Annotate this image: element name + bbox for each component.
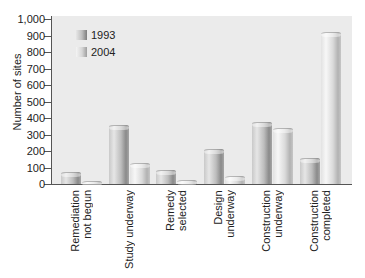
y-tick bbox=[44, 151, 51, 152]
bar-1993-1 bbox=[109, 125, 129, 184]
category-label-3: Design underway bbox=[212, 190, 236, 238]
bar-1993-3 bbox=[204, 149, 224, 184]
category-label-1: Study underway bbox=[123, 190, 135, 269]
category-label-4: Construction underway bbox=[260, 190, 284, 252]
y-tick-label: 700 bbox=[5, 63, 45, 75]
y-tick bbox=[44, 85, 51, 86]
y-tick-label: 400 bbox=[5, 112, 45, 124]
y-tick-label: 100 bbox=[5, 162, 45, 174]
bar-2004-3 bbox=[225, 176, 245, 184]
y-tick-label: 1,000 bbox=[5, 13, 45, 25]
legend-label-1993: 1993 bbox=[91, 29, 115, 41]
y-tick bbox=[44, 184, 51, 185]
category-label-5: Construction completed bbox=[308, 190, 332, 252]
legend-swatch-2004 bbox=[76, 47, 87, 57]
bar-2004-1 bbox=[130, 163, 150, 184]
bar-2004-0 bbox=[82, 181, 102, 184]
bar-2004-2 bbox=[177, 180, 197, 184]
y-tick-label: 600 bbox=[5, 79, 45, 91]
y-tick-label: 900 bbox=[5, 30, 45, 42]
y-tick-label: 800 bbox=[5, 46, 45, 58]
y-tick bbox=[44, 135, 51, 136]
y-tick bbox=[44, 102, 51, 103]
bar-1993-2 bbox=[156, 170, 176, 184]
bar-2004-5 bbox=[321, 32, 341, 184]
y-tick-label: 0 bbox=[5, 178, 45, 190]
category-label-0: Remediation not begun bbox=[69, 190, 93, 252]
bar-2004-4 bbox=[273, 128, 293, 184]
bar-1993-0 bbox=[61, 172, 81, 184]
category-label-2: Remedy selected bbox=[164, 190, 188, 231]
legend-swatch-1993 bbox=[76, 30, 87, 40]
y-tick-label: 300 bbox=[5, 129, 45, 141]
y-tick bbox=[44, 19, 51, 20]
y-tick bbox=[44, 69, 51, 70]
y-tick bbox=[44, 36, 51, 37]
y-tick-label: 500 bbox=[5, 96, 45, 108]
bar-1993-4 bbox=[252, 122, 272, 184]
y-tick bbox=[44, 168, 51, 169]
y-tick bbox=[44, 52, 51, 53]
bar-1993-5 bbox=[300, 158, 320, 184]
y-tick-label: 200 bbox=[5, 145, 45, 157]
legend-label-2004: 2004 bbox=[91, 46, 115, 58]
y-axis-line bbox=[51, 16, 52, 185]
y-tick bbox=[44, 118, 51, 119]
